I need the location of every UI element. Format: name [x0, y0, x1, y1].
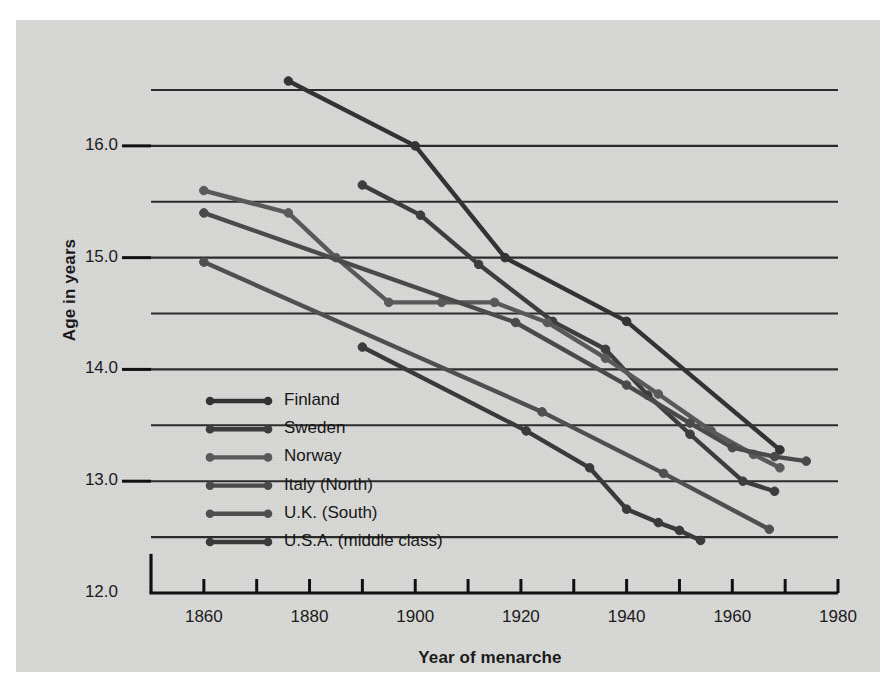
legend-swatch-marker	[206, 425, 215, 434]
data-point	[522, 427, 531, 436]
legend-swatch-marker	[206, 510, 215, 519]
y-axis-tick-label: 14.0	[58, 358, 118, 378]
data-point	[501, 253, 510, 262]
x-axis-tick-label: 1860	[169, 607, 239, 627]
legend-swatch-marker	[206, 453, 215, 462]
data-point	[776, 464, 785, 473]
y-axis-tick-label: 16.0	[58, 135, 118, 155]
y-axis-tick-label: 15.0	[58, 247, 118, 267]
legend-swatch-marker	[264, 397, 273, 406]
legend-label-u-s-a-middle-class: U.S.A. (middle class)	[284, 531, 443, 551]
data-point	[200, 186, 209, 195]
series-u-s-a-middle-class	[358, 343, 705, 545]
y-axis-tick-label: 12.0	[58, 582, 118, 602]
data-point	[686, 419, 695, 428]
series-line	[362, 347, 700, 540]
data-point	[411, 142, 420, 151]
legend-swatch-marker	[206, 538, 215, 547]
data-point	[358, 343, 367, 352]
data-point	[675, 526, 684, 535]
legend-swatch-marker	[264, 481, 273, 490]
data-point	[585, 464, 594, 473]
data-point	[511, 318, 520, 327]
data-point	[416, 211, 425, 220]
data-point	[200, 209, 209, 218]
data-point	[765, 525, 774, 534]
data-point	[601, 354, 610, 363]
legend-swatch-marker	[264, 425, 273, 434]
series-line	[362, 185, 774, 491]
figure-container: Age in years Year of menarche 12.013.014…	[0, 0, 896, 685]
data-point	[654, 518, 663, 527]
x-axis-tick-label: 1960	[697, 607, 767, 627]
legend-swatch-marker	[264, 453, 273, 462]
data-point	[739, 477, 748, 486]
data-point	[543, 318, 552, 327]
legend-swatch-marker	[264, 538, 273, 547]
data-point	[802, 457, 811, 466]
series-line	[288, 81, 779, 450]
x-axis-tick-label: 1980	[803, 607, 873, 627]
line-chart	[0, 0, 896, 685]
legend-label-sweden: Sweden	[284, 418, 345, 438]
data-point	[622, 317, 631, 326]
data-point	[538, 408, 547, 417]
data-point	[686, 430, 695, 439]
series-sweden	[358, 181, 779, 496]
data-point	[622, 381, 631, 390]
data-point	[601, 345, 610, 354]
legend-label-u-k-south: U.K. (South)	[284, 503, 378, 523]
legend-swatch-marker	[206, 481, 215, 490]
data-point	[284, 77, 293, 86]
y-axis-title: Age in years	[60, 210, 80, 370]
data-point	[284, 209, 293, 218]
x-axis-tick-label: 1940	[592, 607, 662, 627]
x-axis-tick-label: 1920	[486, 607, 556, 627]
data-point	[654, 390, 663, 399]
data-point	[770, 452, 779, 461]
x-axis-title: Year of menarche	[340, 648, 640, 668]
data-point	[490, 298, 499, 307]
x-axis-tick-label: 1900	[380, 607, 450, 627]
data-point	[622, 505, 631, 514]
x-axis-tick-label: 1880	[275, 607, 345, 627]
data-point	[728, 443, 737, 452]
legend-swatch-marker	[264, 510, 273, 519]
data-point	[200, 258, 209, 267]
legend-swatches-group	[206, 397, 273, 547]
legend-swatch-marker	[206, 397, 215, 406]
data-point	[696, 536, 705, 545]
data-point	[358, 181, 367, 190]
legend-label-finland: Finland	[284, 390, 340, 410]
y-axis-tick-label: 13.0	[58, 470, 118, 490]
data-point	[474, 260, 483, 269]
data-point	[385, 298, 394, 307]
legend-label-italy-north: Italy (North)	[284, 475, 373, 495]
axes-group	[150, 554, 839, 593]
data-point	[770, 487, 779, 496]
legend-label-norway: Norway	[284, 446, 342, 466]
data-point	[659, 469, 668, 478]
